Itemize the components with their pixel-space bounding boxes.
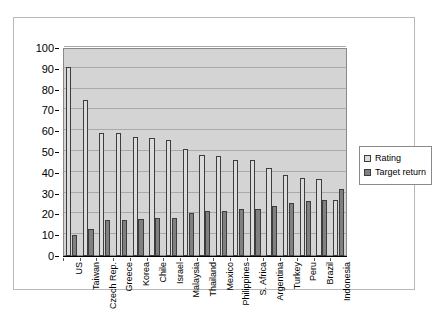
bar-rating	[283, 175, 288, 256]
bar-group	[213, 48, 230, 256]
y-tick-label: 40	[42, 168, 54, 179]
bar-target-return	[138, 219, 143, 256]
y-tick-mark	[55, 69, 59, 70]
x-tick-mark	[247, 258, 248, 261]
y-tick-mark	[55, 235, 59, 236]
bar-rating	[300, 178, 305, 256]
bar-group	[197, 48, 214, 256]
bar-rating	[199, 155, 204, 256]
y-tick-mark	[55, 110, 59, 111]
bar-rating	[333, 200, 338, 256]
gridline	[64, 46, 346, 47]
x-tick-mark	[330, 258, 331, 261]
bar-group	[163, 48, 180, 256]
bars-layer	[63, 48, 347, 256]
bar-group	[63, 48, 80, 256]
x-tick-label: S. Africa	[259, 262, 268, 296]
x-tick-label: US	[75, 262, 84, 275]
bar-target-return	[255, 209, 260, 256]
y-tick-label: 20	[42, 209, 54, 220]
x-tick-mark	[163, 258, 164, 261]
bar-target-return	[88, 229, 93, 256]
x-tick-mark	[314, 258, 315, 261]
x-tick-label: Indonesia	[343, 262, 352, 301]
y-tick-label: 70	[42, 105, 54, 116]
x-tick-label: Greece	[125, 262, 134, 292]
bar-group	[96, 48, 113, 256]
bar-group	[113, 48, 130, 256]
bar-target-return	[72, 235, 77, 256]
x-axis-labels: USTaiwanCzech Rep.GreeceKoreaChileIsrael…	[63, 258, 347, 310]
y-tick-label: 50	[42, 147, 54, 158]
bar-target-return	[289, 203, 294, 256]
bar-target-return	[105, 220, 110, 256]
bar-group	[147, 48, 164, 256]
y-tick-label: 0	[48, 251, 54, 262]
x-tick-label: Czech Rep.	[109, 262, 118, 309]
x-tick-mark	[130, 258, 131, 261]
bar-group	[280, 48, 297, 256]
bar-rating	[233, 160, 238, 256]
y-tick-mark	[55, 194, 59, 195]
bar-rating	[133, 137, 138, 256]
legend-item: Rating	[364, 152, 426, 165]
y-tick-label: 60	[42, 126, 54, 137]
x-tick-label: Mexico	[226, 262, 235, 291]
y-tick-mark	[55, 90, 59, 91]
bar-rating	[99, 133, 104, 256]
x-tick-label: Chile	[159, 262, 168, 283]
x-tick-mark	[213, 258, 214, 261]
x-tick-mark	[263, 258, 264, 261]
x-tick-label: Argentina	[276, 262, 285, 301]
bar-rating	[183, 149, 188, 256]
y-tick-mark	[55, 152, 59, 153]
x-tick-label: Brazil	[326, 262, 335, 285]
y-tick-label: 100	[36, 43, 54, 54]
x-tick-mark	[147, 258, 148, 261]
x-tick-label: Turkey	[293, 262, 302, 289]
y-tick-mark	[55, 131, 59, 132]
x-tick-mark	[63, 258, 64, 261]
bar-rating	[316, 179, 321, 256]
legend-label: Target return	[375, 168, 426, 177]
x-tick-label: Philippines	[242, 262, 251, 306]
x-tick-mark	[96, 258, 97, 261]
legend-swatch-rating	[364, 155, 371, 162]
bar-target-return	[189, 213, 194, 256]
legend-item: Target return	[364, 166, 426, 179]
bar-rating	[216, 156, 221, 256]
x-tick-mark	[197, 258, 198, 261]
bar-target-return	[306, 201, 311, 256]
y-tick-mark	[55, 214, 59, 215]
y-tick-mark	[55, 48, 59, 49]
bar-group	[314, 48, 331, 256]
x-tick-label: Thailand	[209, 262, 218, 297]
x-tick-label: Peru	[309, 262, 318, 281]
chart-frame: 0102030405060708090100 USTaiwanCzech Rep…	[13, 17, 415, 290]
bar-rating	[266, 168, 271, 256]
legend-label: Rating	[375, 154, 401, 163]
y-axis: 0102030405060708090100	[27, 42, 59, 262]
y-tick-label: 30	[42, 189, 54, 200]
bar-group	[297, 48, 314, 256]
bar-target-return	[239, 209, 244, 256]
y-tick-label: 10	[42, 230, 54, 241]
bar-group	[247, 48, 264, 256]
bar-rating	[66, 67, 71, 256]
bar-target-return	[339, 189, 344, 256]
bar-rating	[166, 140, 171, 256]
x-tick-label: Korea	[142, 262, 151, 286]
x-tick-label: Malaysia	[192, 262, 201, 298]
bar-target-return	[122, 220, 127, 256]
bar-target-return	[272, 206, 277, 256]
bar-group	[180, 48, 197, 256]
bar-group	[230, 48, 247, 256]
x-tick-label: Israel	[176, 262, 185, 284]
x-tick-mark	[280, 258, 281, 261]
y-tick-mark	[55, 173, 59, 174]
x-tick-mark	[297, 258, 298, 261]
bar-rating	[116, 133, 121, 256]
bar-target-return	[322, 200, 327, 256]
bar-target-return	[155, 218, 160, 256]
x-axis-line	[63, 256, 347, 257]
